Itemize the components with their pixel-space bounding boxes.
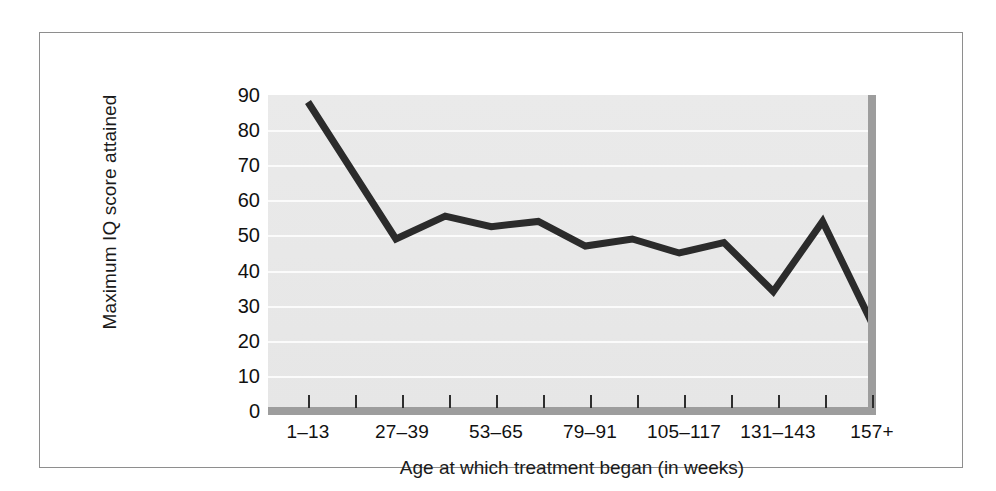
y-tick-label: 60 bbox=[218, 190, 260, 210]
x-tick-mark bbox=[308, 395, 310, 408]
x-tick-label: 105–117 bbox=[647, 421, 721, 443]
x-tick-label: 131–143 bbox=[740, 421, 815, 443]
x-tick-mark bbox=[449, 395, 451, 408]
x-tick-label: 53–65 bbox=[469, 421, 523, 443]
y-tick-label: 80 bbox=[218, 120, 260, 140]
x-tick-label: 1–13 bbox=[286, 421, 329, 443]
y-tick-label: 50 bbox=[218, 225, 260, 245]
y-tick-label: 20 bbox=[218, 331, 260, 351]
y-tick-label: 0 bbox=[218, 401, 260, 421]
x-tick-mark bbox=[731, 395, 733, 408]
x-tick-mark bbox=[496, 395, 498, 408]
x-axis-tick-labels: 1–1327–3953–6579–91105–117131–143157+ bbox=[228, 421, 928, 449]
x-tick-mark bbox=[778, 395, 780, 408]
y-tick-label: 30 bbox=[218, 296, 260, 316]
plot-right-edge-bar bbox=[868, 95, 876, 413]
x-tick-label: 157+ bbox=[850, 421, 894, 443]
chart-figure: Maximum IQ score attained 01020304050607… bbox=[0, 0, 996, 491]
x-tick-mark bbox=[684, 395, 686, 408]
x-tick-mark bbox=[355, 395, 357, 408]
y-tick-label: 40 bbox=[218, 261, 260, 281]
x-axis-title: Age at which treatment began (in weeks) bbox=[268, 457, 876, 479]
x-tick-mark bbox=[543, 395, 545, 408]
x-tick-label: 27–39 bbox=[375, 421, 429, 443]
figure-frame: Maximum IQ score attained 01020304050607… bbox=[39, 32, 963, 468]
x-tick-mark bbox=[590, 395, 592, 408]
x-tick-mark bbox=[825, 395, 827, 408]
y-tick-label: 70 bbox=[218, 155, 260, 175]
x-tick-mark bbox=[637, 395, 639, 408]
plot-area bbox=[268, 95, 868, 411]
x-tick-label: 79–91 bbox=[563, 421, 617, 443]
y-tick-label: 10 bbox=[218, 366, 260, 386]
y-axis-tick-labels: 0102030405060708090 bbox=[218, 95, 260, 411]
x-tick-mark bbox=[872, 395, 874, 408]
data-series-line bbox=[268, 95, 868, 411]
x-tick-mark bbox=[402, 395, 404, 408]
x-axis-ticks bbox=[268, 395, 876, 409]
y-tick-label: 90 bbox=[218, 85, 260, 105]
y-axis-title: Maximum IQ score attained bbox=[99, 52, 121, 372]
